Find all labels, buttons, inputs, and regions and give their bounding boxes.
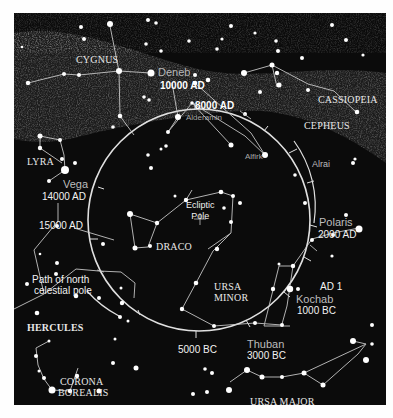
star-label-alderamin: Alderamin [186, 114, 222, 122]
star-label-vega: Vega [63, 179, 88, 190]
star-label-thuban: Thuban [247, 339, 284, 350]
date-label-1000bc: 1000 BC [297, 306, 336, 316]
star-label-polaris: Polaris [319, 217, 353, 228]
ecliptic-pole-label-line2: Pole [186, 211, 215, 222]
star-label-deneb: Deneb [158, 67, 190, 78]
constellation-label-lyra: LYRA [27, 157, 54, 167]
ecliptic-pole-label-line1: Ecliptic [186, 200, 215, 211]
star-label-kochab: Kochab [296, 294, 333, 305]
path-of-pole-label: Path of north celestial pole [32, 274, 92, 296]
date-label-3000bc: 3000 BC [247, 351, 286, 361]
constellation-label-ursa-major: URSA MAJOR [250, 397, 315, 405]
constellation-label-ursa-minor-2: MINOR [214, 293, 248, 303]
path-of-pole-label-line1: Path of north [32, 274, 92, 285]
constellation-label-ursa-minor-1: URSA [214, 282, 241, 292]
date-label-5000bc: 5000 BC [178, 345, 217, 355]
date-label-8000ad: 8000 AD [195, 101, 234, 111]
constellation-label-cepheus: CEPHEUS [304, 121, 350, 131]
date-label-10000ad: 10000 AD [160, 81, 205, 91]
star-label-alrai: Alrai [312, 160, 330, 169]
constellation-label-cassiopeia: CASSIOPEIA [318, 95, 378, 105]
star-chart: CYGNUS Deneb 10000 AD 8000 AD Alderamin … [14, 13, 386, 405]
date-label-2000ad: 2000 AD [318, 230, 356, 240]
date-label-ad1: AD 1 [320, 282, 342, 292]
constellation-label-corona-2: BOREALIS [58, 388, 109, 398]
constellation-label-cygnus: CYGNUS [76, 55, 118, 65]
path-of-pole-label-line2: celestial pole [32, 285, 92, 296]
ecliptic-pole-label: Ecliptic Pole [186, 200, 215, 222]
date-label-14000ad: 14000 AD [42, 192, 86, 202]
star-label-alfirk: Alfirk [245, 153, 263, 161]
constellation-label-hercules: HERCULES [27, 323, 84, 333]
date-label-15000ad: 15000 AD [39, 221, 83, 231]
constellation-label-corona-1: CORONA [60, 377, 103, 387]
constellation-label-draco: DRACO [156, 242, 192, 252]
